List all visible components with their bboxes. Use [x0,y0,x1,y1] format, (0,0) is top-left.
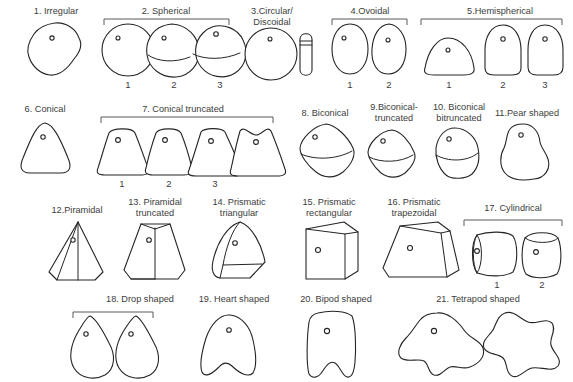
perforation-icon [116,138,121,143]
shape-bipod [307,311,355,377]
shape-spherical-3 [196,26,246,77]
variant-number: 1 [446,79,451,90]
group-tetrapod-shaped: 21. Tetrapod shaped [399,294,560,377]
perforation-icon [342,36,346,40]
variant-number: 1 [347,79,352,90]
variant-number: 1 [494,279,499,290]
label-conical-truncated: 7. Conical truncated [142,104,224,114]
label-biconical: 8. Biconical [302,108,349,118]
label-biconical-bitruncated: 10. Biconical [433,102,485,112]
label-bipod-shaped: 20. Bipod shaped [300,294,372,304]
perforation-icon [313,135,317,139]
shape-prismatic-trapezoidal [383,222,459,277]
perforation-icon [162,36,166,40]
shape-conical-truncated-2 [145,129,192,175]
shape-irregular [28,23,81,75]
shape-typology-figure: 1. Irregular 2. Spherical 1 2 3 3.Circul… [0,0,573,382]
label-conical: 6. Conical [25,104,66,114]
group-circular-discoidal: 3.Circular/ Discoidal [245,6,312,80]
perforation-icon [316,248,321,253]
perforation-icon [116,36,120,40]
perforation-icon [543,37,547,41]
shape-discoidal-profile [300,34,312,76]
variant-number: 2 [171,79,176,90]
shape-biconical [300,124,354,177]
label-prismatic-trapezoidal: 16. Prismatic [387,197,441,207]
perforation-icon [501,37,505,41]
variant-number: 2 [386,79,391,90]
group-piramidal-truncated: 13. Piramidal truncated [124,197,185,279]
shape-biconical-truncated [368,130,415,177]
perforation-icon [519,133,523,137]
label-drop-shaped: 18. Drop shaped [106,294,174,304]
label-ovoidal: 4.Ovoidal [351,6,390,16]
typology-svg: 1. Irregular 2. Spherical 1 2 3 3.Circul… [0,0,573,382]
perforation-icon [147,238,152,243]
label-biconical-bitruncated-2: bitruncated [436,113,481,123]
label-prismatic-triangular-2: triangular [220,208,258,218]
bracket-conical-truncated [101,117,273,123]
variant-number: 1 [125,79,130,90]
perforation-icon [381,139,385,143]
label-biconical-truncated-2: truncated [375,113,413,123]
shape-conical [21,123,70,173]
group-piramidal: 12.Piramidal [49,205,103,280]
label-prismatic-triangular: 14. Prismatic [212,197,266,207]
shape-heart [201,315,256,375]
group-cylindrical: 17. Cylindrical 1 2 [464,203,562,290]
perforation-icon [446,48,450,52]
perforation-icon [41,135,45,139]
perforation-icon [254,140,259,145]
shape-ovoidal-1 [332,24,368,74]
label-spherical: 2. Spherical [142,6,191,16]
shape-tetrapod-2 [483,312,559,376]
perforation-icon [475,249,480,254]
group-pear-shaped: 11.Pear shaped [495,108,559,180]
perforation-icon [268,37,272,41]
perforation-icon [84,332,88,336]
group-conical-truncated: 7. Conical truncated 1 2 3 [97,104,285,189]
bracket-ovoidal [332,19,407,25]
shape-prismatic-rectangular [306,222,358,279]
label-piramidal: 12.Piramidal [51,205,102,215]
label-pear-shaped: 11.Pear shaped [495,108,559,118]
label-heart-shaped: 19. Heart shaped [199,294,270,304]
shape-conical-truncated-4 [230,129,285,176]
label-prismatic-rectangular: 15. Prismatic [302,197,356,207]
bracket-cylindrical [464,220,562,226]
shape-hemispherical-3 [528,25,563,75]
label-prismatic-rectangular-2: rectangular [306,208,352,218]
group-drop-shaped: 18. Drop shaped [71,294,174,378]
group-hemispherical: 5.Hemispherical 1 2 3 [421,6,563,90]
shape-ovoidal-2 [372,24,406,74]
group-irregular: 1. Irregular [28,6,81,75]
variant-number: 3 [217,79,222,90]
label-prismatic-trapezoidal-2: trapezoidal [392,208,437,218]
variant-number: 3 [542,79,547,90]
perforation-icon [324,328,329,333]
perforation-icon [227,328,232,333]
group-ovoidal: 4.Ovoidal 1 2 [332,6,407,90]
group-heart-shaped: 19. Heart shaped [199,294,270,375]
group-spherical: 2. Spherical 1 2 3 [102,6,246,90]
bracket-hemispherical [421,19,562,25]
label-hemispherical: 5.Hemispherical [467,6,533,16]
group-prismatic-trapezoidal: 16. Prismatic trapezoidal [383,197,459,277]
variant-number: 1 [119,178,124,189]
variant-number: 3 [212,178,217,189]
label-irregular: 1. Irregular [34,6,78,16]
shape-pear [501,124,549,180]
shape-hemispherical-1 [424,38,474,75]
perforation-icon [163,138,168,143]
group-prismatic-triangular: 14. Prismatic triangular [212,197,266,278]
label-biconical-truncated: 9.Biconical- [370,102,418,112]
shape-biconical-bitruncated [436,128,479,178]
shape-discoidal-face [245,28,297,80]
group-biconical-truncated: 9.Biconical- truncated [368,102,418,177]
perforation-icon [209,139,214,144]
shape-piramidal [49,222,103,280]
bracket-drop-shaped [73,312,153,318]
perforation-icon [534,250,539,255]
perforation-icon [233,241,238,246]
variant-number: 2 [539,279,544,290]
